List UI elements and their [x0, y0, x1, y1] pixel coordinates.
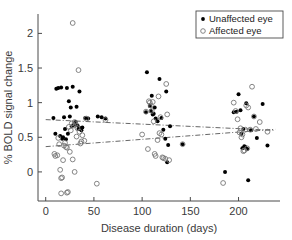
data-point: [146, 147, 151, 152]
data-point: [80, 126, 84, 130]
x-tick-label: 50: [88, 205, 100, 217]
data-point: [77, 90, 81, 94]
data-point: [61, 158, 66, 163]
data-point: [62, 115, 66, 119]
data-point: [223, 170, 227, 174]
data-point: [164, 90, 168, 94]
x-axis-title: Disease duration (days): [101, 222, 217, 234]
x-tick-label: 100: [133, 205, 151, 217]
data-point: [246, 178, 250, 182]
data-point: [157, 77, 161, 81]
data-point: [140, 132, 145, 137]
data-point: [58, 167, 63, 172]
legend-marker-unaffected-icon: [201, 17, 205, 21]
data-point: [235, 117, 240, 122]
data-point: [67, 99, 71, 103]
data-point: [150, 94, 154, 98]
y-tick-label: 0.5: [18, 131, 33, 143]
data-point: [151, 119, 156, 124]
data-point: [68, 115, 72, 119]
data-point: [75, 105, 79, 109]
data-point: [69, 106, 73, 110]
x-tick-label: 200: [229, 205, 247, 217]
data-point: [71, 85, 75, 89]
data-point: [67, 149, 72, 154]
x-tick-label: 0: [43, 205, 49, 217]
data-point: [72, 170, 77, 175]
data-point: [237, 92, 241, 96]
data-point: [70, 21, 75, 26]
data-point: [164, 82, 169, 87]
data-point: [76, 68, 81, 73]
y-tick-label: 1.5: [18, 62, 33, 74]
data-point: [51, 116, 55, 120]
data-point: [165, 112, 170, 117]
data-point: [250, 84, 255, 89]
data-point: [231, 100, 236, 105]
data-point: [156, 94, 161, 99]
data-point: [257, 120, 262, 125]
data-point: [59, 191, 64, 196]
data-point: [59, 85, 63, 89]
legend-label: Unaffected eye: [209, 13, 273, 24]
data-point: [70, 157, 75, 162]
data-point: [53, 132, 57, 136]
y-tick-label: 2: [27, 27, 33, 39]
data-point: [255, 136, 259, 140]
data-point: [65, 86, 69, 90]
data-point: [80, 133, 85, 138]
data-point: [166, 143, 170, 147]
data-point: [82, 138, 87, 143]
legend-label: Affected eye: [209, 25, 262, 36]
data-point: [238, 108, 242, 112]
data-point: [163, 137, 167, 141]
data-point: [145, 70, 149, 74]
data-point: [168, 124, 172, 128]
data-points: [51, 21, 269, 196]
data-point: [261, 102, 265, 106]
data-point: [96, 115, 100, 119]
axes: [38, 14, 280, 201]
x-tick-label: 150: [181, 205, 199, 217]
scatter-plot: 05010015020000.511.52Disease duration (d…: [0, 0, 292, 240]
y-tick-label: 0: [27, 166, 33, 178]
data-point: [221, 181, 226, 186]
y-tick-label: 1: [27, 97, 33, 109]
axis-labels: 05010015020000.511.52Disease duration (d…: [2, 27, 248, 234]
chart-figure: 05010015020000.511.52Disease duration (d…: [0, 0, 292, 240]
data-point: [74, 134, 79, 139]
data-point: [265, 144, 269, 148]
data-point: [94, 181, 99, 186]
y-axis-title: % BOLD signal change: [2, 51, 14, 165]
legend[interactable]: Unaffected eyeAffected eye: [196, 11, 283, 38]
data-point: [161, 128, 165, 132]
